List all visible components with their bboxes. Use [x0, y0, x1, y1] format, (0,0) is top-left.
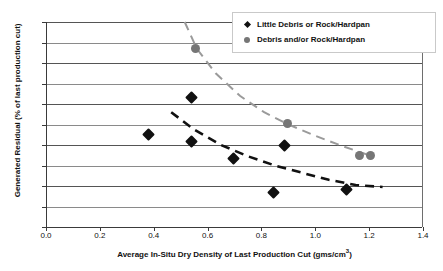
legend: Little Debris or Rock/Hardpan Debris and… — [232, 12, 436, 53]
x-axis-tick-mark — [100, 227, 101, 231]
y-axis-tick-mark — [42, 22, 46, 23]
x-axis-tick-label: 1.4 — [403, 232, 443, 240]
y-axis-tick-mark — [42, 84, 46, 85]
y-axis-tick-mark — [42, 145, 46, 146]
legend-item-little-debris[interactable]: Little Debris or Rock/Hardpan — [239, 17, 429, 32]
x-axis-tick-mark — [208, 227, 209, 231]
x-axis-tick-mark — [154, 227, 155, 231]
y-axis-tick-mark — [42, 63, 46, 64]
circle-marker-icon — [239, 37, 255, 43]
x-axis-title-tail: ) — [349, 250, 352, 259]
x-axis-tick-label: 0.4 — [134, 232, 174, 240]
y-axis-tick-mark — [42, 104, 46, 105]
x-axis-title-text: Average In-Situ Dry Density of Last Prod… — [117, 250, 346, 259]
y-axis-tick-mark — [42, 207, 46, 208]
x-axis-tick-label: 0.0 — [26, 232, 66, 240]
legend-item-label: Debris and/or Rock/Hardpan — [255, 35, 365, 44]
legend-item-label: Little Debris or Rock/Hardpan — [255, 20, 370, 29]
x-axis-tick-mark — [261, 227, 262, 231]
y-axis-tick-mark — [42, 43, 46, 44]
x-axis-tick-mark — [46, 227, 47, 231]
x-axis-tick-label: 0.8 — [241, 232, 281, 240]
x-axis-title: Average In-Situ Dry Density of Last Prod… — [46, 248, 423, 259]
chart-container: 0%1%2%3%4%5%6%7%8%9%10%0.00.20.40.60.81.… — [0, 0, 443, 271]
x-axis-tick-mark — [315, 227, 316, 231]
diamond-marker-icon — [239, 22, 255, 27]
x-axis-tick-label: 1.0 — [295, 232, 335, 240]
x-axis-tick-label: 0.6 — [188, 232, 228, 240]
x-axis-tick-mark — [369, 227, 370, 231]
x-axis-tick-label: 1.2 — [349, 232, 389, 240]
y-axis-tick-mark — [42, 186, 46, 187]
y-axis-title: Generated Residual (% of last production… — [14, 0, 23, 220]
x-axis-tick-label: 0.2 — [80, 232, 120, 240]
x-axis-tick-mark — [423, 227, 424, 231]
legend-item-debris-rock[interactable]: Debris and/or Rock/Hardpan — [239, 32, 429, 47]
y-axis-tick-mark — [42, 166, 46, 167]
y-axis-tick-mark — [42, 125, 46, 126]
